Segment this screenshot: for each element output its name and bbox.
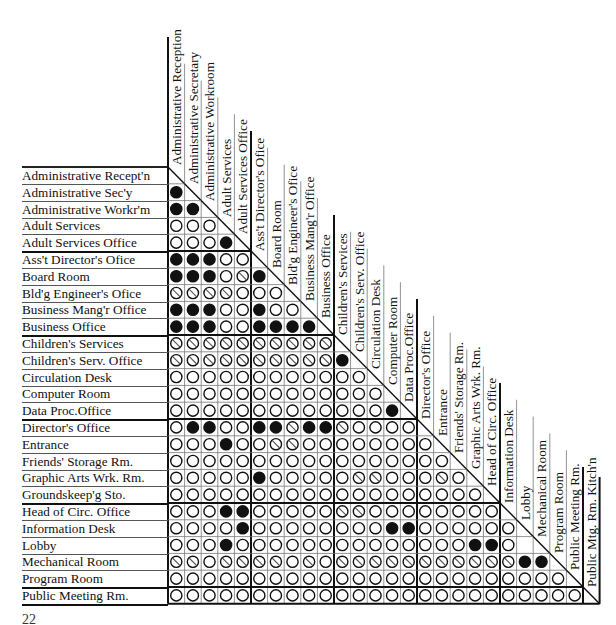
open-circle-icon [254, 388, 265, 399]
open-circle-icon [353, 405, 364, 416]
column-label: Administrative Workroom [202, 62, 217, 201]
open-circle-icon [171, 371, 182, 382]
row-label: Circulation Desk [22, 369, 168, 387]
open-circle-icon [453, 590, 464, 601]
column-label: Computer Room [385, 297, 400, 385]
open-circle-icon [187, 590, 198, 601]
column-label: Administrative Reception [169, 29, 184, 165]
open-circle-icon [353, 455, 364, 466]
filled-circle-icon [171, 321, 182, 332]
open-circle-icon [187, 472, 198, 483]
open-circle-icon [254, 455, 265, 466]
open-circle-icon [270, 405, 281, 416]
filled-circle-icon [171, 304, 182, 315]
open-circle-icon [320, 455, 331, 466]
row-label: Bld'g Engineer's Ofice [22, 285, 168, 303]
filled-circle-icon [270, 321, 281, 332]
slashed-circle-icon [287, 338, 298, 349]
column-label: Bld'g Engineer's Ofice [285, 166, 300, 285]
open-circle-icon [254, 590, 265, 601]
row-label: Lobby [22, 537, 168, 555]
open-circle-icon [204, 237, 215, 248]
open-circle-icon [403, 590, 414, 601]
open-circle-icon [320, 590, 331, 601]
open-circle-icon [287, 472, 298, 483]
open-circle-icon [304, 506, 315, 517]
open-circle-icon [420, 539, 431, 550]
open-circle-icon [254, 506, 265, 517]
open-circle-icon [353, 573, 364, 584]
open-circle-icon [270, 573, 281, 584]
open-circle-icon [171, 573, 182, 584]
open-circle-icon [171, 405, 182, 416]
open-circle-icon [171, 455, 182, 466]
open-circle-icon [171, 590, 182, 601]
open-circle-icon [436, 523, 447, 534]
slashed-circle-icon [221, 556, 232, 567]
open-circle-icon [237, 371, 248, 382]
open-circle-icon [221, 455, 232, 466]
filled-circle-icon [171, 187, 182, 198]
slashed-circle-icon [254, 556, 265, 567]
slashed-circle-icon [237, 271, 248, 282]
open-circle-icon [370, 573, 381, 584]
open-circle-icon [337, 371, 348, 382]
open-circle-icon [237, 304, 248, 315]
open-circle-icon [387, 472, 398, 483]
open-circle-icon [204, 556, 215, 567]
open-circle-icon [204, 405, 215, 416]
open-circle-icon [221, 523, 232, 534]
slashed-circle-icon [221, 338, 232, 349]
open-circle-icon [221, 405, 232, 416]
slashed-circle-icon [304, 355, 315, 366]
open-circle-icon [403, 539, 414, 550]
open-circle-icon [187, 573, 198, 584]
open-circle-icon [204, 371, 215, 382]
slashed-circle-icon [353, 556, 364, 567]
open-circle-icon [337, 455, 348, 466]
column-label: Information Desk [501, 410, 516, 503]
open-circle-icon [270, 287, 281, 298]
open-circle-icon [171, 539, 182, 550]
filled-circle-icon [304, 321, 315, 332]
filled-circle-icon [387, 405, 398, 416]
column-label: Graphic Arts Wrk. Rm. [468, 347, 483, 470]
column-label: Program Room [551, 472, 566, 553]
open-circle-icon [436, 590, 447, 601]
slashed-circle-icon [304, 556, 315, 567]
slashed-circle-icon [237, 338, 248, 349]
open-circle-icon [254, 439, 265, 450]
column-label: Director's Office [418, 331, 433, 419]
filled-circle-icon [204, 321, 215, 332]
open-circle-icon [486, 523, 497, 534]
open-circle-icon [187, 388, 198, 399]
column-label: Lobby [518, 485, 533, 519]
open-circle-icon [304, 371, 315, 382]
open-circle-icon [237, 539, 248, 550]
column-label: Board Room [269, 200, 284, 268]
open-circle-icon [453, 523, 464, 534]
open-circle-icon [270, 506, 281, 517]
open-circle-icon [420, 439, 431, 450]
filled-circle-icon [519, 556, 530, 567]
open-circle-icon [403, 506, 414, 517]
open-circle-icon [387, 590, 398, 601]
open-circle-icon [337, 523, 348, 534]
open-circle-icon [470, 489, 481, 500]
open-circle-icon [221, 254, 232, 265]
open-circle-icon [320, 556, 331, 567]
open-circle-icon [204, 388, 215, 399]
filled-circle-icon [304, 422, 315, 433]
slashed-circle-icon [453, 556, 464, 567]
open-circle-icon [304, 472, 315, 483]
open-circle-icon [370, 590, 381, 601]
open-circle-icon [320, 388, 331, 399]
open-circle-icon [187, 237, 198, 248]
filled-circle-icon [470, 539, 481, 550]
slashed-circle-icon [287, 422, 298, 433]
open-circle-icon [370, 439, 381, 450]
open-circle-icon [503, 590, 514, 601]
open-circle-icon [486, 506, 497, 517]
open-circle-icon [237, 489, 248, 500]
filled-circle-icon [187, 203, 198, 214]
